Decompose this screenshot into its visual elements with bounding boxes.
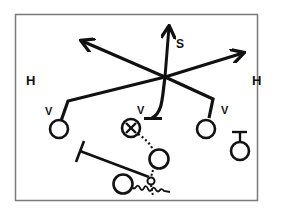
player-bottom <box>114 175 133 194</box>
player-left <box>50 120 68 138</box>
route-loop <box>148 178 155 185</box>
player-center-x <box>122 119 140 137</box>
player-mid <box>150 150 169 169</box>
player-right <box>197 120 215 138</box>
label-s: S <box>176 37 184 51</box>
label-v-left: V <box>45 105 53 117</box>
label-h-right: H <box>252 73 261 88</box>
play-diagram: S H H V V V <box>0 0 288 221</box>
label-h-left: H <box>26 73 35 88</box>
label-v-right: V <box>221 104 229 116</box>
label-v-center: V <box>137 104 145 116</box>
